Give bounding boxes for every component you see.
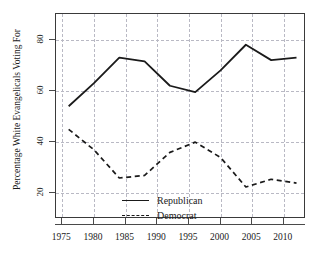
- legend-label-republican: Republican: [157, 195, 203, 206]
- page-bleed-text: [0, 246, 312, 254]
- x-axis-line: [55, 224, 305, 225]
- x-tick-label: 2005: [234, 232, 268, 243]
- legend-item-democrat: Democrat: [122, 208, 203, 223]
- legend-swatch-solid-icon: [122, 196, 149, 206]
- x-tick-label: 1975: [44, 232, 78, 243]
- x-tick-label: 1995: [171, 232, 205, 243]
- x-tick-label: 1980: [76, 232, 110, 243]
- y-tick-label: 40: [35, 131, 45, 151]
- x-tick-label: 2000: [203, 232, 237, 243]
- y-tick-label: 60: [35, 80, 45, 100]
- legend-item-republican: Republican: [122, 193, 203, 208]
- x-tick-label: 1985: [108, 232, 142, 243]
- y-tick-label: 20: [35, 182, 45, 202]
- legend-label-democrat: Democrat: [157, 210, 196, 221]
- chart-figure: Percentage White Evangelicals Voting For…: [0, 0, 312, 254]
- legend-swatch-dashed-icon: [122, 211, 149, 221]
- series-line-republican: [69, 45, 297, 107]
- y-axis-title: Percentage White Evangelicals Voting For: [12, 5, 23, 215]
- x-tick-label: 1990: [139, 232, 173, 243]
- series-line-democrat: [69, 129, 297, 187]
- y-tick-label: 80: [35, 29, 45, 49]
- x-tick-label: 2010: [266, 232, 300, 243]
- series-lines: [56, 14, 306, 219]
- plot-area: Republican Democrat: [55, 13, 305, 218]
- chart-legend: Republican Democrat: [122, 193, 203, 223]
